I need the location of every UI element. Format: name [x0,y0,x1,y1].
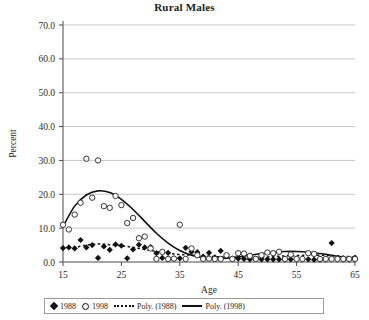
data-point-1988 [329,240,335,246]
data-point-1988 [60,245,66,251]
data-point-1988 [206,250,212,256]
y-axis-tick-label: 20.0 [38,190,55,200]
legend-label: 1998 [92,302,108,311]
data-point-1998 [323,256,328,261]
data-point-1988 [276,256,282,262]
data-point-1998 [335,256,340,261]
data-point-1988 [130,246,136,252]
data-point-1988 [89,242,95,248]
data-point-1988 [264,256,270,262]
data-point-1988 [95,255,101,261]
legend-label: Poly. (1988) [137,302,176,311]
data-point-1998 [142,234,147,239]
legend-label: 1988 [60,302,76,311]
x-axis-tick-label: 15 [58,270,68,280]
chart-container: Rural Males 0.010.020.030.040.050.060.07… [0,0,369,320]
data-point-1998 [247,253,252,258]
data-point-1998 [160,249,165,254]
data-point-1998 [84,156,89,161]
y-axis-tick-label: 40.0 [38,122,55,132]
data-point-1998 [212,256,217,261]
data-point-1998 [130,215,135,220]
data-point-1998 [206,256,211,261]
data-point-1998 [317,256,322,261]
y-axis-tick-label: 30.0 [38,156,55,166]
data-point-1988 [136,242,142,248]
data-point-1988 [159,255,165,261]
legend-item-poly-1988: Poly. (1988) [108,299,176,313]
y-axis-tick-label: 70.0 [38,21,55,31]
x-axis-tick-label: 45 [233,270,243,280]
y-axis-tick-label: 50.0 [38,88,55,98]
data-point-1998 [311,251,316,256]
data-point-1998 [165,256,170,261]
data-point-1998 [288,252,293,257]
data-point-1998 [218,256,223,261]
data-point-1988 [165,250,171,256]
x-axis-tick-label: 55 [292,270,302,280]
data-point-1998 [101,203,106,208]
data-point-1998 [294,256,299,261]
data-point-1988 [107,247,113,253]
data-point-1998 [136,236,141,241]
data-point-1988 [72,245,78,251]
data-point-1998 [113,193,118,198]
data-point-1988 [305,256,311,262]
data-point-1998 [341,256,346,261]
trendline-poly-1998 [63,191,355,259]
data-point-1988 [101,243,107,249]
data-point-1988 [270,256,276,262]
data-point-1998 [224,253,229,258]
data-point-1998 [329,256,334,261]
data-point-1998 [125,220,130,225]
x-axis-title: Age [201,285,217,295]
data-point-1988 [77,237,83,243]
open-circle-icon [82,303,89,310]
x-axis-tick-label: 25 [117,270,127,280]
data-point-1998 [259,253,264,258]
data-point-1998 [189,246,194,251]
chart-legend: 1988 1998 Poly. (1988) Poly. (1998) [44,298,324,314]
data-point-1998 [241,251,246,256]
data-point-1998 [148,246,153,251]
data-point-1988 [118,243,124,249]
data-point-1998 [119,202,124,207]
data-point-1998 [154,256,159,261]
legend-item-1998: 1998 [76,299,108,313]
filled-diamond-icon [50,302,58,310]
y-axis-tick-label: 60.0 [38,54,55,64]
data-point-1998 [253,256,258,261]
dotted-line-icon [114,305,134,307]
y-axis-tick-label: 10.0 [38,224,55,234]
data-point-1998 [66,227,71,232]
y-axis-title: Percent [8,129,18,158]
x-axis-tick-label: 65 [350,270,360,280]
data-point-1998 [352,256,357,261]
x-axis-tick-label: 35 [175,270,185,280]
data-point-1998 [300,256,305,261]
data-point-1998 [171,256,176,261]
data-point-1988 [218,248,224,254]
solid-line-icon [182,305,202,307]
chart-plot-area: 0.010.020.030.040.050.060.070.0152535455… [0,0,369,295]
data-point-1998 [107,205,112,210]
data-point-1998 [306,251,311,256]
data-point-1988 [124,255,130,261]
data-point-1998 [60,222,65,227]
data-point-1998 [195,253,200,258]
legend-item-poly-1998: Poly. (1998) [176,299,244,313]
data-point-1998 [183,256,188,261]
data-point-1998 [282,256,287,261]
data-point-1988 [177,255,183,261]
data-point-1998 [90,195,95,200]
data-point-1998 [177,222,182,227]
data-point-1998 [78,200,83,205]
data-point-1998 [95,158,100,163]
data-point-1998 [72,212,77,217]
data-point-1998 [346,256,351,261]
data-point-1998 [230,256,235,261]
data-point-1998 [276,249,281,254]
data-point-1988 [66,244,72,250]
data-point-1988 [183,245,189,251]
data-point-1998 [236,251,241,256]
